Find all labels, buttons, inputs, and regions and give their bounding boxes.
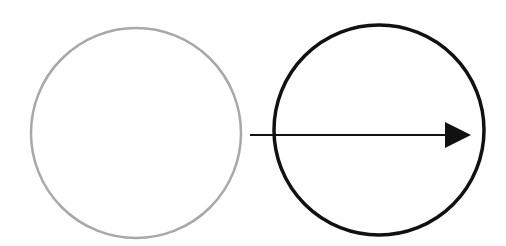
arrow-head-icon [445, 122, 471, 148]
gray-circle [31, 28, 241, 238]
diagram-svg [0, 0, 506, 246]
diagram-canvas [0, 0, 506, 246]
